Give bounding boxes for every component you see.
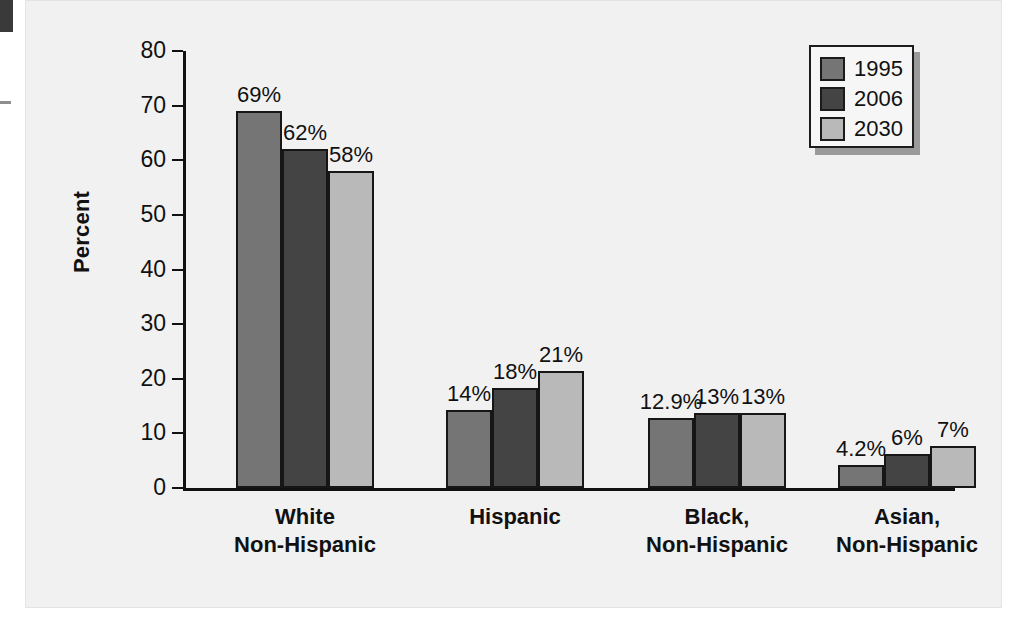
bar — [930, 446, 976, 488]
bar-value-label: 58% — [308, 144, 394, 166]
y-axis-tick — [172, 378, 183, 380]
chart-legend: 199520062030 — [809, 45, 914, 148]
y-axis-tick — [172, 432, 183, 434]
bar-value-label: 13% — [720, 386, 806, 408]
y-axis-tick-label: 70 — [106, 94, 166, 117]
y-axis-tick-label: 30 — [106, 312, 166, 335]
x-axis-category-label: Hispanic — [400, 503, 630, 531]
bar — [694, 413, 740, 488]
y-axis-tick — [172, 214, 183, 216]
legend-label: 2006 — [854, 88, 903, 110]
x-axis-category-label: Asian, Non-Hispanic — [792, 503, 1014, 558]
y-axis-tick-label: 20 — [106, 367, 166, 390]
legend-label: 2030 — [854, 118, 903, 140]
chart-panel: Percent 01020304050607080 69%62%58%14%18… — [25, 0, 1002, 608]
page-margin-dash-artifact — [0, 101, 11, 104]
y-axis-tick — [172, 105, 183, 107]
y-axis-tick-label: 60 — [106, 148, 166, 171]
bar-value-label: 62% — [262, 122, 348, 144]
legend-item: 2006 — [820, 86, 903, 112]
y-axis-tick-label: 40 — [106, 258, 166, 281]
x-axis-line — [183, 488, 955, 491]
bar — [538, 371, 584, 488]
y-axis-tick-label: 0 — [106, 476, 166, 499]
legend-item: 2030 — [820, 116, 903, 142]
x-axis-category-label: White Non-Hispanic — [190, 503, 420, 558]
legend-swatch — [820, 57, 845, 81]
legend-swatch — [820, 117, 845, 141]
bar — [838, 465, 884, 488]
bar — [328, 171, 374, 488]
bar — [282, 149, 328, 488]
y-axis-tick — [172, 487, 183, 489]
legend-swatch — [820, 87, 845, 111]
bar-value-label: 69% — [216, 84, 302, 106]
y-axis-line — [183, 51, 186, 490]
bar — [648, 418, 694, 488]
bar — [884, 454, 930, 488]
page-edge-artifact — [0, 0, 13, 32]
y-axis-tick — [172, 50, 183, 52]
bar — [740, 413, 786, 488]
y-axis-tick-label: 80 — [106, 39, 166, 62]
bar-value-label: 21% — [518, 344, 604, 366]
bar — [236, 111, 282, 488]
y-axis-tick — [172, 159, 183, 161]
y-axis-tick — [172, 323, 183, 325]
plot-area: Percent 01020304050607080 69%62%58%14%18… — [26, 1, 1003, 609]
legend-item: 1995 — [820, 56, 903, 82]
bar-value-label: 7% — [910, 419, 996, 441]
bar — [446, 410, 492, 488]
bar — [492, 388, 538, 488]
y-axis-title: Percent — [69, 172, 95, 292]
y-axis-tick — [172, 269, 183, 271]
legend-label: 1995 — [854, 58, 903, 80]
y-axis-tick-label: 10 — [106, 421, 166, 444]
y-axis-tick-label: 50 — [106, 203, 166, 226]
